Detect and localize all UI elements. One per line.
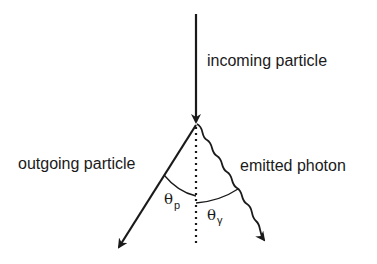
theta-p-subscript: p	[174, 199, 180, 211]
emitted-photon-label: emitted photon	[240, 157, 346, 174]
theta-gamma-symbol: θ	[207, 206, 216, 224]
theta-p-symbol: θ	[164, 190, 173, 208]
theta-gamma-arc	[196, 189, 238, 203]
outgoing-particle-arrow	[119, 125, 196, 247]
outgoing-particle-label: outgoing particle	[18, 155, 136, 172]
incoming-particle-label: incoming particle	[207, 52, 327, 69]
scattering-diagram: incoming particle outgoing particle emit…	[0, 0, 377, 264]
theta-gamma-subscript: γ	[217, 214, 223, 226]
